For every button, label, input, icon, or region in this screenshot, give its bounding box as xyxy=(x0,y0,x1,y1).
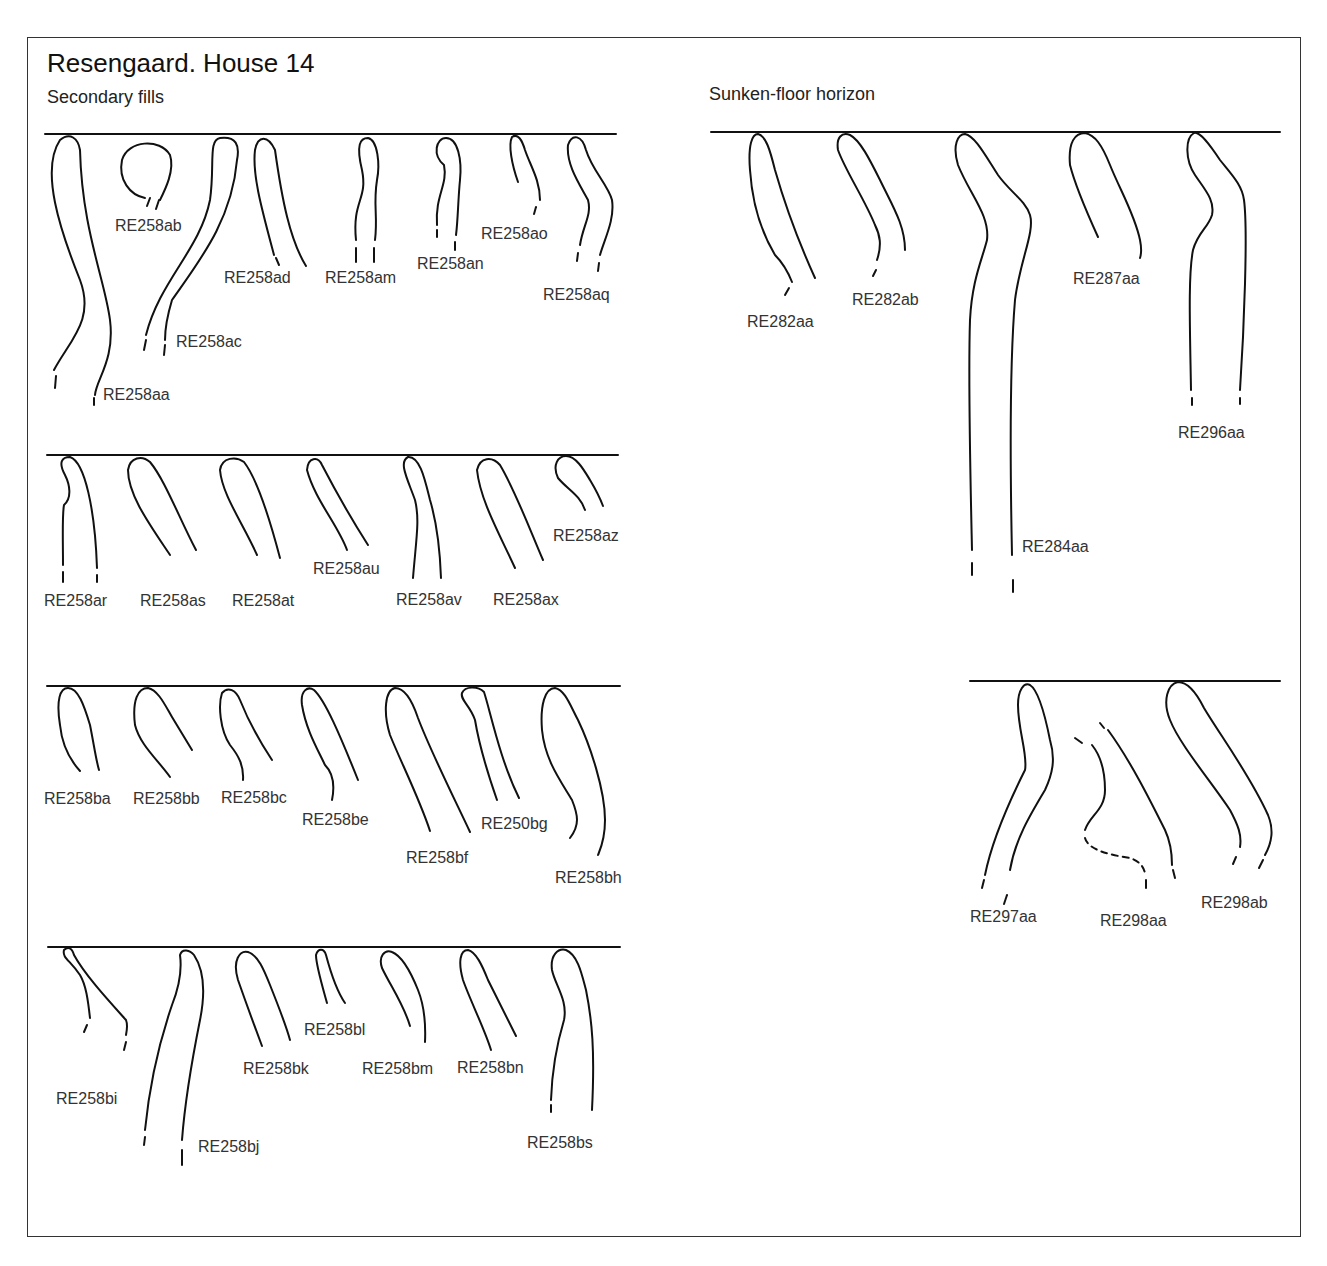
label-RE284aa: RE284aa xyxy=(1022,538,1089,556)
profile-RE258bh xyxy=(542,688,605,855)
label-RE258be: RE258be xyxy=(302,811,369,829)
profile-RE258bs xyxy=(551,950,593,1112)
profile-RE282aa xyxy=(749,134,815,295)
label-RE258bh: RE258bh xyxy=(555,869,622,887)
label-RE258aa: RE258aa xyxy=(103,386,170,404)
profile-RE258aq xyxy=(568,137,613,271)
label-RE258ad: RE258ad xyxy=(224,269,291,287)
label-RE258av: RE258av xyxy=(396,591,462,609)
label-RE258bm: RE258bm xyxy=(362,1060,433,1078)
profile-RE258bm xyxy=(381,951,425,1042)
label-RE258bf: RE258bf xyxy=(406,849,468,867)
label-RE258at: RE258at xyxy=(232,592,294,610)
label-RE258az: RE258az xyxy=(553,527,619,545)
profile-RE258ax xyxy=(477,459,543,568)
label-RE258ab: RE258ab xyxy=(115,217,182,235)
label-RE258au: RE258au xyxy=(313,560,380,578)
label-RE258bi: RE258bi xyxy=(56,1090,117,1108)
profile-RE258bk xyxy=(236,952,290,1046)
profile-RE258bg xyxy=(462,688,519,800)
label-RE258aq: RE258aq xyxy=(543,286,610,304)
label-RE258ar: RE258ar xyxy=(44,592,107,610)
label-RE258bb: RE258bb xyxy=(133,790,200,808)
profile-RE258bi xyxy=(64,948,127,1050)
profile-RE258bf xyxy=(386,688,470,832)
profile-RE258ad xyxy=(254,139,306,266)
profile-RE258am xyxy=(355,138,378,262)
label-RE258ac: RE258ac xyxy=(176,333,242,351)
profile-RE297aa xyxy=(982,684,1053,904)
profile-RE258ao xyxy=(510,136,540,214)
label-RE258bj: RE258bj xyxy=(198,1138,259,1156)
label-RE282aa: RE282aa xyxy=(747,313,814,331)
profile-RE287aa xyxy=(1070,133,1141,258)
label-RE258ax: RE258ax xyxy=(493,591,559,609)
profile-RE258au xyxy=(307,459,368,550)
profile-RE298ab xyxy=(1166,682,1271,868)
profile-RE258at xyxy=(220,458,280,558)
profile-RE284aa xyxy=(956,134,1031,592)
profile-RE258ac xyxy=(144,138,238,355)
label-RE258bn: RE258bn xyxy=(457,1059,524,1077)
profile-RE258bn xyxy=(460,950,516,1050)
label-RE258bk: RE258bk xyxy=(243,1060,309,1078)
label-RE258as: RE258as xyxy=(140,592,206,610)
profile-RE296aa xyxy=(1187,133,1245,405)
profile-RE258bc xyxy=(220,689,272,780)
profile-RE258bj xyxy=(144,950,203,1165)
profile-RE258be xyxy=(302,689,358,800)
label-RE258ba: RE258ba xyxy=(44,790,111,808)
label-RE298ab: RE298ab xyxy=(1201,894,1268,912)
label-RE258bs: RE258bs xyxy=(527,1134,593,1152)
label-RE258ao: RE258ao xyxy=(481,225,548,243)
profile-RE258bl xyxy=(316,950,345,1003)
profile-RE258aa xyxy=(52,136,111,405)
label-RE258bc: RE258bc xyxy=(221,789,287,807)
profile-RE258ar xyxy=(61,457,97,582)
label-RE296aa: RE296aa xyxy=(1178,424,1245,442)
profile-RE258av xyxy=(404,457,441,578)
pottery-profiles-drawing xyxy=(0,0,1327,1266)
label-RE297aa: RE297aa xyxy=(970,908,1037,926)
label-RE298aa: RE298aa xyxy=(1100,912,1167,930)
profile-RE258ab xyxy=(121,144,171,209)
profile-RE258an xyxy=(437,138,461,250)
profile-RE258ba xyxy=(58,688,99,771)
profile-RE258bb xyxy=(134,688,192,777)
profile-RE258az xyxy=(556,456,603,510)
label-RE287aa: RE287aa xyxy=(1073,270,1140,288)
profile-RE258as xyxy=(128,458,196,555)
label-RE258bg: RE250bg xyxy=(481,815,548,833)
label-RE258am: RE258am xyxy=(325,269,396,287)
label-RE258bl: RE258bl xyxy=(304,1021,365,1039)
label-RE258an: RE258an xyxy=(417,255,484,273)
profile-RE282ab xyxy=(838,134,905,276)
label-RE282ab: RE282ab xyxy=(852,291,919,309)
profile-RE298aa xyxy=(1075,723,1175,888)
